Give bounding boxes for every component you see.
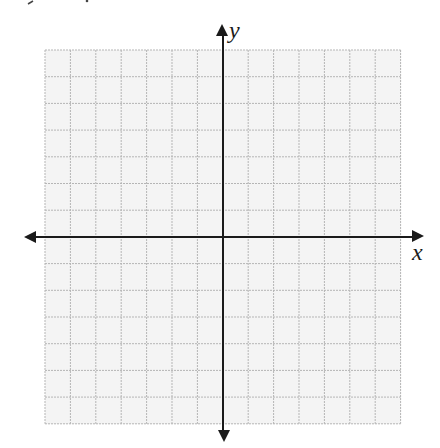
- y-axis-label: y: [227, 17, 240, 43]
- y-axis-down-arrow-icon: [218, 430, 230, 442]
- cropped-text-fragment: [86, 0, 89, 2]
- y-axis-up-arrow-icon: [216, 24, 228, 36]
- x-axis-label: x: [411, 239, 423, 265]
- x-axis-left-arrow-icon: [24, 231, 36, 243]
- cropped-text-fragment: [28, 1, 33, 4]
- coordinate-plane: y x: [0, 0, 440, 448]
